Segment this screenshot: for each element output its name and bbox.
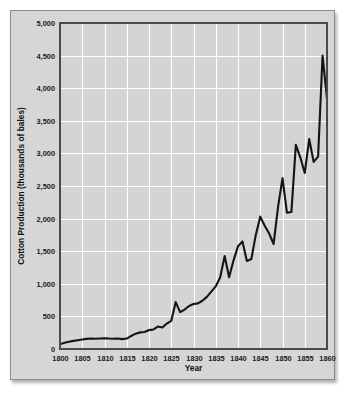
x-tick-label: 1840 (230, 354, 246, 363)
y-tick-label: 5,000 (37, 19, 56, 28)
y-tick-label: 500 (43, 312, 55, 321)
y-tick-label: 2,000 (37, 215, 56, 224)
plot-wrapper: 05001,0001,5002,0002,5003,0003,5004,0004… (0, 0, 346, 395)
x-tick-label: 1860 (319, 354, 335, 363)
y-tick-label: 2,500 (37, 182, 56, 191)
x-tick-label: 1800 (52, 354, 68, 363)
y-tick-label: 1,500 (37, 247, 56, 256)
y-tick-label: 3,000 (37, 149, 56, 158)
cotton-production-line-chart: 05001,0001,5002,0002,5003,0003,5004,0004… (0, 0, 346, 395)
x-tick-label: 1825 (163, 354, 179, 363)
figure-container: 05001,0001,5002,0002,5003,0003,5004,0004… (0, 0, 346, 395)
x-axis-tick-labels: 1800180518101815182018251830183518401845… (52, 354, 335, 363)
x-tick-label: 1830 (186, 354, 202, 363)
x-tick-label: 1835 (208, 354, 224, 363)
y-tick-label: 1,000 (37, 280, 56, 289)
y-axis-tick-labels: 05001,0001,5002,0002,5003,0003,5004,0004… (37, 19, 56, 354)
x-tick-label: 1815 (119, 354, 135, 363)
y-tick-label: 4,500 (37, 52, 56, 61)
x-tick-label: 1805 (74, 354, 90, 363)
x-tick-label: 1820 (141, 354, 157, 363)
y-tick-label: 4,000 (37, 84, 56, 93)
x-tick-label: 1850 (275, 354, 291, 363)
x-tick-label: 1845 (252, 354, 268, 363)
y-tick-label: 3,500 (37, 117, 56, 126)
y-axis-title: Cotton Production (thousands of bales) (16, 107, 26, 265)
x-axis-title: Year (185, 363, 203, 373)
x-tick-label: 1855 (297, 354, 313, 363)
x-tick-label: 1810 (97, 354, 113, 363)
